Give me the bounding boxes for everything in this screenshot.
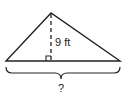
right-angle-marker	[46, 56, 51, 61]
base-brace	[6, 67, 120, 79]
triangle-diagram: 9 ft ?	[0, 0, 128, 105]
height-label: 9 ft	[55, 36, 70, 48]
base-unknown-label: ?	[58, 82, 64, 94]
